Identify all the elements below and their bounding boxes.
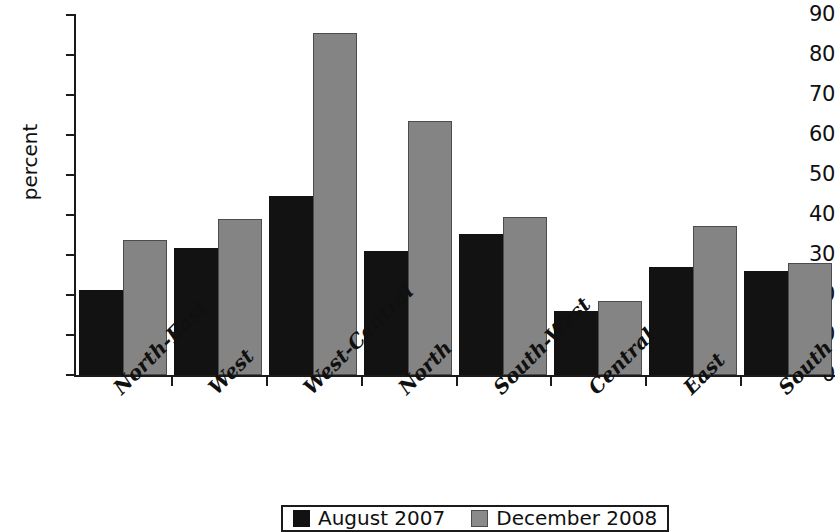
y-axis-tick [66, 214, 75, 216]
y-axis-tick [66, 14, 75, 16]
bar [649, 267, 693, 375]
y-axis-tick [66, 174, 75, 176]
y-axis-tick [66, 334, 75, 336]
y-axis-tick [66, 254, 75, 256]
y-axis-tick [66, 54, 75, 56]
grouped-bar-chart: percent 9080706050403020100 North-EastWe… [0, 0, 835, 532]
y-axis-tick [66, 294, 75, 296]
bar [313, 33, 357, 375]
x-axis-category-labels: North-EastWestWest-CentralNorthSouth-Wes… [0, 377, 835, 492]
y-axis-tick [66, 134, 75, 136]
legend-label: December 2008 [496, 508, 657, 528]
black-swatch-icon [293, 510, 310, 527]
legend-entry-august-2007: August 2007 [293, 508, 445, 528]
y-axis-tick [66, 374, 75, 376]
bar [408, 121, 452, 375]
legend-entry-december-2008: December 2008 [471, 508, 657, 528]
bar [269, 196, 313, 375]
bar [459, 234, 503, 375]
y-axis-tick [66, 94, 75, 96]
chart-legend: August 2007 December 2008 [281, 505, 669, 532]
y-axis-title: percent [18, 102, 42, 222]
bar [744, 271, 788, 375]
legend-label: August 2007 [318, 508, 445, 528]
bar [79, 290, 123, 375]
gray-swatch-icon [471, 510, 488, 527]
